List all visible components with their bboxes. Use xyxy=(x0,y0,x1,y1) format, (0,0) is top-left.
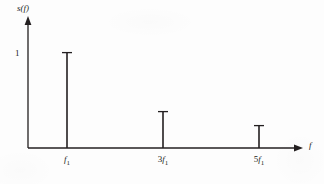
spectral-line-f1 xyxy=(62,53,72,148)
y-axis-label: s(f) xyxy=(17,4,29,13)
x-tick-label-3f1: 3f1 xyxy=(158,155,169,167)
spectral-line-5f1 xyxy=(254,126,264,148)
amplitude-axis xyxy=(25,16,32,148)
y-tick-label-1: 1 xyxy=(15,49,20,58)
x-tick-label-5f1: 5f1 xyxy=(254,155,265,167)
spectral-line-3f1 xyxy=(158,112,168,148)
x-tick-subscript-f1: 1 xyxy=(67,159,71,167)
y-axis-arrowhead xyxy=(25,16,32,25)
frequency-axis xyxy=(28,145,303,152)
line-spectrum-figure: s(f) f 1 f1 3f1 5f1 xyxy=(0,0,324,184)
x-tick-label-f1: f1 xyxy=(64,155,70,167)
x-axis-label: f xyxy=(309,141,312,150)
x-axis-arrowhead xyxy=(294,145,303,152)
x-tick-subscript-5f1: 1 xyxy=(261,159,265,167)
x-tick-subscript-3f1: 1 xyxy=(165,159,169,167)
